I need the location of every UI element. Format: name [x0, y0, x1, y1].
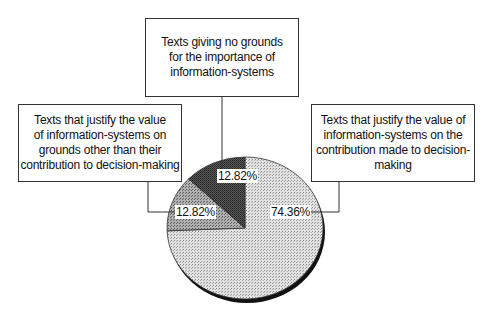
slice-label-other-grounds: 12.82%: [175, 205, 216, 219]
callout-no-grounds-text: Texts giving no grounds for the importan…: [161, 35, 282, 80]
slice-label-decision-making: 74.36%: [270, 205, 311, 219]
slice-label-no-grounds: 12.82%: [217, 169, 258, 183]
callout-other-grounds: Texts that justify the value of informat…: [18, 104, 182, 182]
callout-no-grounds: Texts giving no grounds for the importan…: [145, 18, 299, 97]
callout-other-grounds-text: Texts that justify the value of informat…: [20, 113, 179, 173]
callout-decision-making-text: Texts that justify the value of informat…: [316, 113, 470, 173]
callout-decision-making: Texts that justify the value of informat…: [311, 104, 475, 182]
